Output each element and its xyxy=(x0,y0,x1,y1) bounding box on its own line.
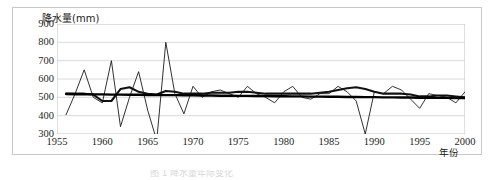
figure-caption-strip: 图 1 降水量年际变化 xyxy=(150,170,360,180)
x-tick-label: 1970 xyxy=(183,136,204,147)
y-tick-label: 900 xyxy=(38,19,54,29)
y-tick-label: 500 xyxy=(38,92,54,102)
y-tick-label: 800 xyxy=(38,37,54,47)
x-tick-label: 1965 xyxy=(137,136,158,147)
figure-caption: 图 1 降水量年际变化 xyxy=(150,170,233,179)
x-axis-tick-labels: 1955196019651970197519801985199019952000 xyxy=(0,136,493,150)
precipitation-line-chart-figure: 降水量(mm) 900800700600500400300 1955196019… xyxy=(0,0,493,180)
plot-area xyxy=(57,24,465,134)
y-tick-label: 700 xyxy=(38,56,54,66)
x-tick-label: 1980 xyxy=(273,136,294,147)
x-tick-label: 1975 xyxy=(228,136,249,147)
x-axis-title: 年份 xyxy=(439,145,459,159)
y-tick-label: 400 xyxy=(38,111,54,121)
x-tick-label: 1960 xyxy=(92,136,113,147)
x-tick-label: 1995 xyxy=(409,136,430,147)
y-axis-tick-labels: 900800700600500400300 xyxy=(16,22,54,134)
x-tick-label: 1990 xyxy=(364,136,385,147)
y-tick-label: 600 xyxy=(38,74,54,84)
x-tick-label: 1985 xyxy=(319,136,340,147)
x-tick-label: 1955 xyxy=(47,136,68,147)
